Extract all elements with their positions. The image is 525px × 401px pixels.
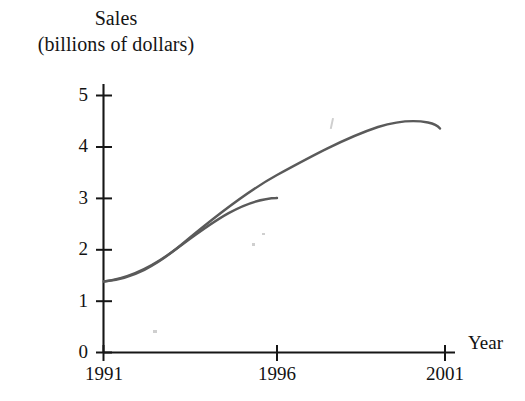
x-tick-label-1996: 1996 <box>237 363 317 385</box>
x-tick-label-1991: 1991 <box>64 363 144 385</box>
sales-line-chart: Sales (billions of dollars) <box>0 0 525 401</box>
y-tick-label-0: 0 <box>62 341 88 363</box>
sales-curve-main <box>104 121 440 281</box>
y-tick-label-5: 5 <box>62 84 88 106</box>
y-tick-label-2: 2 <box>62 238 88 260</box>
y-tick-label-1: 1 <box>62 290 88 312</box>
plot-area: 5 4 3 2 1 0 1991 1996 2001 Year <box>0 0 525 401</box>
sales-curve <box>104 198 277 282</box>
y-tick-label-3: 3 <box>62 187 88 209</box>
x-axis-label-year: Year <box>468 332 503 354</box>
scan-speckles <box>153 118 334 333</box>
y-tick-label-4: 4 <box>62 135 88 157</box>
x-tick-label-2001: 2001 <box>405 363 485 385</box>
